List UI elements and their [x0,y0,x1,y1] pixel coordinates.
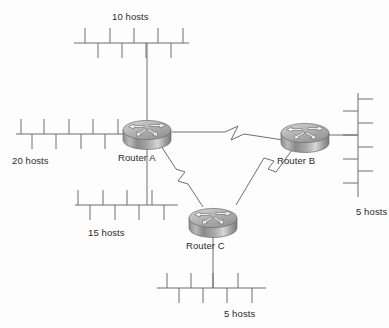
router-a-label: Router A [118,152,156,163]
segment-label-5-hosts-bottom: 5 hosts [224,308,255,319]
segment-label-10-hosts: 10 hosts [112,11,149,22]
router-c-icon[interactable] [189,208,237,237]
link-a-b-line [172,126,283,140]
segment-label-5-hosts-right: 5 hosts [356,206,387,217]
segment-20-hosts-lines [16,119,126,149]
segment-label-20-hosts: 20 hosts [12,155,49,166]
network-diagram-canvas: 10 hosts 20 hosts 15 hosts 5 hosts 5 hos… [0,0,389,328]
segment-10-hosts-lines [74,28,189,124]
router-a-icon[interactable] [123,120,171,149]
segment-5-hosts-right-lines [327,93,373,197]
router-b-label: Router B [277,155,315,166]
link-a-c-line [161,146,203,207]
router-c-label: Router C [186,240,225,251]
router-b-icon[interactable] [281,123,329,152]
network-diagram-svg [0,0,389,328]
segment-label-15-hosts: 15 hosts [88,227,125,238]
